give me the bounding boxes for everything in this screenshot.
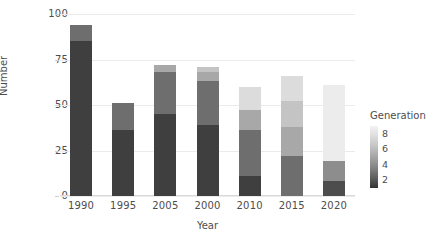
x-axis-tick-1990: 1990 xyxy=(59,200,103,211)
x-axis-tick-2005: 2005 xyxy=(143,200,187,211)
y-axis-tick-dash-0 xyxy=(55,196,59,197)
gridline-0 xyxy=(60,196,355,197)
bar-segment-2000-gen1 xyxy=(197,125,219,196)
bar-segment-2000-gen6 xyxy=(197,67,219,72)
bar-segment-2005-gen1 xyxy=(154,114,176,196)
bar-2020 xyxy=(323,14,345,196)
bar-2000 xyxy=(197,14,219,196)
plot-area xyxy=(60,14,355,196)
x-axis-tick-2010: 2010 xyxy=(228,200,272,211)
x-axis-tick-2020: 2020 xyxy=(312,200,356,211)
bar-segment-2010-gen5 xyxy=(239,110,261,130)
legend-title: Generation xyxy=(370,110,426,121)
bar-segment-2000-gen3 xyxy=(197,81,219,125)
bar-segment-2010-gen1 xyxy=(239,176,261,196)
legend-tick-4: 4 xyxy=(382,160,388,170)
bar-segment-2015-gen7 xyxy=(281,76,303,101)
x-axis-tick-1995: 1995 xyxy=(101,200,145,211)
y-axis-tick-dash-75 xyxy=(55,60,59,61)
bar-1990 xyxy=(70,14,92,196)
bar-segment-2015-gen6 xyxy=(281,101,303,126)
y-axis-tick-dash-100 xyxy=(55,14,59,15)
bar-segment-2015-gen5 xyxy=(281,127,303,156)
bar-segment-2020-gen4 xyxy=(323,161,345,181)
bar-segment-2020-gen2 xyxy=(323,181,345,196)
legend-colorbar xyxy=(370,126,378,188)
bar-segment-1990-gen3 xyxy=(70,25,92,41)
bar-segment-1995-gen3 xyxy=(112,103,134,130)
bar-segment-1995-gen1 xyxy=(112,130,134,196)
x-axis-label: Year xyxy=(0,220,415,231)
x-axis-tick-2000: 2000 xyxy=(186,200,230,211)
y-axis-tick-dash-50 xyxy=(55,105,59,106)
bar-segment-2000-gen5 xyxy=(197,72,219,81)
bar-segment-2005-gen5 xyxy=(154,65,176,72)
legend-tick-6: 6 xyxy=(382,144,388,154)
y-axis-label: Number xyxy=(0,56,9,96)
bar-segment-2005-gen3 xyxy=(154,72,176,114)
bar-2010 xyxy=(239,14,261,196)
bar-1995 xyxy=(112,14,134,196)
y-axis-tick-dash-25 xyxy=(55,151,59,152)
bar-segment-2015-gen3 xyxy=(281,156,303,196)
bar-segment-2020-gen8 xyxy=(323,85,345,161)
bar-2015 xyxy=(281,14,303,196)
x-axis-tick-2015: 2015 xyxy=(270,200,314,211)
stacked-bar-chart: Number 0255075100 1990199520052000201020… xyxy=(0,0,443,242)
bar-segment-2010-gen3 xyxy=(239,130,261,176)
bar-2005 xyxy=(154,14,176,196)
legend-tick-2: 2 xyxy=(382,175,388,185)
bar-segment-1990-gen1 xyxy=(70,41,92,196)
bar-segment-2010-gen7 xyxy=(239,87,261,111)
legend-tick-8: 8 xyxy=(382,129,388,139)
